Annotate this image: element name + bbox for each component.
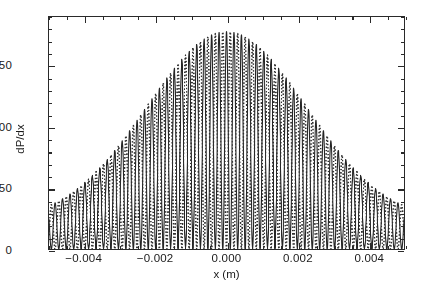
x-minor-tick: [245, 246, 246, 249]
y-minor-tick: [49, 140, 52, 141]
x-minor-tick: [138, 17, 139, 20]
y-minor-tick: [49, 54, 52, 55]
x-major-tick: [85, 17, 86, 23]
x-minor-tick: [352, 246, 353, 249]
y-major-tick: [398, 251, 404, 252]
y-minor-tick: [401, 54, 404, 55]
x-axis-title: x (m): [48, 268, 405, 280]
y-minor-tick: [49, 165, 52, 166]
y-minor-tick: [401, 17, 404, 18]
y-major-tick: [398, 189, 404, 190]
y-tick-label: 0: [5, 244, 12, 256]
y-minor-tick: [49, 42, 52, 43]
x-minor-tick: [317, 246, 318, 249]
y-minor-tick: [49, 226, 52, 227]
y-minor-tick: [49, 91, 52, 92]
x-tick-label: −0.004: [65, 252, 102, 264]
x-minor-tick: [210, 246, 211, 249]
plot-frame: [48, 16, 405, 250]
y-minor-tick: [401, 202, 404, 203]
x-major-tick: [228, 243, 229, 249]
x-minor-tick: [263, 246, 264, 249]
x-minor-tick: [406, 246, 407, 249]
x-major-tick: [85, 243, 86, 249]
x-major-tick: [299, 17, 300, 23]
y-minor-tick: [401, 116, 404, 117]
y-minor-tick: [401, 239, 404, 240]
y-major-tick: [49, 189, 55, 190]
y-minor-tick: [49, 17, 52, 18]
x-major-tick: [228, 17, 229, 23]
x-minor-tick: [103, 246, 104, 249]
y-tick-label: 100: [0, 121, 12, 133]
y-minor-tick: [401, 177, 404, 178]
y-minor-tick: [49, 29, 52, 30]
y-minor-tick: [49, 239, 52, 240]
y-minor-tick: [401, 91, 404, 92]
x-major-tick: [370, 243, 371, 249]
x-minor-tick: [317, 17, 318, 20]
x-tick-label: 0.002: [283, 252, 313, 264]
x-minor-tick: [192, 17, 193, 20]
y-minor-tick: [49, 116, 52, 117]
x-minor-tick: [245, 17, 246, 20]
y-minor-tick: [401, 103, 404, 104]
x-minor-tick: [335, 246, 336, 249]
y-minor-tick: [401, 165, 404, 166]
x-tick-label: 0.000: [212, 252, 242, 264]
y-tick-label: 50: [0, 182, 12, 194]
y-minor-tick: [49, 152, 52, 153]
y-tick-label: 150: [0, 59, 12, 71]
y-minor-tick: [49, 214, 52, 215]
x-tick-label: 0.004: [354, 252, 384, 264]
interference-pattern-plot: [49, 17, 404, 249]
x-tick-label: −0.002: [137, 252, 174, 264]
y-major-tick: [398, 66, 404, 67]
x-minor-tick: [120, 17, 121, 20]
x-major-tick: [370, 17, 371, 23]
y-minor-tick: [49, 202, 52, 203]
x-minor-tick: [174, 246, 175, 249]
x-minor-tick: [67, 246, 68, 249]
y-minor-tick: [49, 177, 52, 178]
y-minor-tick: [401, 29, 404, 30]
x-minor-tick: [120, 246, 121, 249]
x-minor-tick: [103, 17, 104, 20]
x-minor-tick: [281, 246, 282, 249]
x-minor-tick: [49, 246, 50, 249]
y-minor-tick: [401, 226, 404, 227]
y-major-tick: [49, 66, 55, 67]
x-minor-tick: [174, 17, 175, 20]
y-minor-tick: [401, 79, 404, 80]
x-minor-tick: [352, 17, 353, 20]
x-minor-tick: [138, 246, 139, 249]
y-minor-tick: [49, 103, 52, 104]
x-minor-tick: [67, 17, 68, 20]
y-minor-tick: [401, 42, 404, 43]
x-minor-tick: [192, 246, 193, 249]
x-minor-tick: [388, 246, 389, 249]
x-minor-tick: [281, 17, 282, 20]
y-minor-tick: [401, 140, 404, 141]
x-minor-tick: [335, 17, 336, 20]
x-minor-tick: [210, 17, 211, 20]
x-major-tick: [156, 17, 157, 23]
y-major-tick: [49, 128, 55, 129]
diffraction-intensity-figure: −0.004−0.0020.0000.0020.004 050100150 x …: [0, 0, 422, 290]
x-major-tick: [156, 243, 157, 249]
y-major-tick: [49, 251, 55, 252]
x-minor-tick: [406, 17, 407, 20]
y-minor-tick: [401, 152, 404, 153]
y-minor-tick: [401, 214, 404, 215]
x-minor-tick: [263, 17, 264, 20]
y-axis-title: dP/dx: [14, 109, 26, 169]
y-minor-tick: [49, 79, 52, 80]
y-major-tick: [398, 128, 404, 129]
x-minor-tick: [388, 17, 389, 20]
x-major-tick: [299, 243, 300, 249]
